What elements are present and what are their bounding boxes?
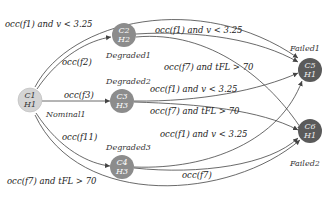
node-n5[interactable]: C5 H1 — [298, 58, 322, 82]
node-n3[interactable]: C3 H3 — [110, 89, 134, 113]
edge-label-n4-n6: occ(f7) — [182, 170, 212, 180]
node-label-bottom: H3 — [115, 167, 128, 176]
edge-label-n1-n3: occ(f3) — [64, 90, 94, 100]
node-n4[interactable]: C4 H3 — [110, 155, 134, 179]
state-label-n1: Nominal1 — [45, 110, 86, 119]
edge-label-n1-n2: occ(f2) — [62, 57, 92, 67]
node-label-top: C2 — [118, 26, 129, 35]
node-n6[interactable]: C6 H1 — [298, 119, 322, 143]
state-label-n2: Degraded1 — [105, 51, 151, 60]
node-label-top: C5 — [304, 61, 315, 70]
edge-n4-n6 — [134, 138, 298, 170]
edge-label-n1-n6: occ(f7) and tFL > 70 — [7, 176, 97, 186]
node-label-top: C6 — [304, 122, 315, 131]
node-label-top: C3 — [116, 92, 127, 101]
node-label-bottom: H3 — [115, 101, 128, 110]
node-label-bottom: H1 — [303, 131, 316, 140]
state-label-n6: Failed2 — [289, 159, 320, 168]
edge-label-n3-n5: occ(f1) and v < 3.25 — [150, 84, 237, 94]
state-label-n5: Failed1 — [289, 44, 320, 53]
edge-label-n3-n6: occ(f7) and tFL > 70 — [150, 106, 240, 116]
edge-label-n2-n6: occ(f7) and tFL > 70 — [164, 62, 254, 72]
state-label-n3: Degraded2 — [105, 77, 151, 86]
edge-label-n1-n4: occ(f11) — [62, 132, 97, 142]
node-label-bottom: H1 — [303, 70, 316, 79]
state-label-n4: Degraded3 — [105, 143, 151, 152]
node-label-top: C4 — [116, 158, 127, 167]
node-label-bottom: H1 — [23, 100, 36, 109]
node-n2[interactable]: C2 H2 — [112, 23, 136, 47]
node-label-bottom: H2 — [117, 35, 130, 44]
edge-n2-n5 — [136, 33, 298, 62]
edge-label-n1-n5: occ(f1) and v < 3.25 — [5, 19, 92, 29]
edge-label-n2-n5: occ(f1) and v < 3.25 — [155, 25, 242, 35]
edge-label-n4-n5: occ(f1) and v < 3.25 — [160, 129, 247, 139]
node-label-top: C1 — [24, 91, 35, 100]
state-diagram: occ(f1) and v < 3.25 occ(f2) occ(f3) occ… — [0, 0, 335, 197]
node-n1[interactable]: C1 H1 — [18, 88, 42, 112]
